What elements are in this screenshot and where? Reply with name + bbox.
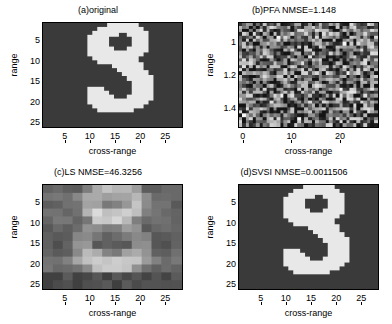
subplot-a-xticks: 510152025 xyxy=(42,131,183,143)
subplot-d-xtick-mark xyxy=(336,302,337,305)
subplot-c-axes xyxy=(42,184,183,290)
subplot-b-xtick-mark xyxy=(340,140,341,143)
subplot-b-yticks: 11.21.4 xyxy=(196,22,236,128)
subplot-a-xtick-mark xyxy=(65,140,66,143)
subplot-c-xtick-mark xyxy=(165,302,166,305)
subplot-c-xticks: 510152025 xyxy=(42,293,183,305)
subplot-b-axes xyxy=(238,22,379,128)
subplot-a-ytick-label: 10 xyxy=(2,56,40,65)
subplot-d-xlabel: cross-range xyxy=(238,308,379,318)
subplot-b-ytick-label: 1 xyxy=(198,37,236,46)
subplot-c-title: (c)LS NMSE=46.3256 xyxy=(0,167,196,178)
subplot-d-xtick-mark xyxy=(286,302,287,305)
subplot-a-title: (a)original xyxy=(0,5,196,16)
subplot-b-ytick-label: 1.2 xyxy=(198,71,236,80)
subplot-c-ytick-label: 10 xyxy=(2,218,40,227)
subplot-a-xlabel: cross-range xyxy=(42,146,183,156)
subplot-d-yticks: 510152025 xyxy=(196,184,236,290)
subplot-a-xtick-mark xyxy=(165,140,166,143)
subplot-d-ytick-label: 25 xyxy=(198,279,236,288)
subplot-d-image xyxy=(239,185,378,289)
subplot-d-ytick-label: 15 xyxy=(198,239,236,248)
subplot-c-ytick-label: 15 xyxy=(2,239,40,248)
subplot-a-yticks: 510152025 xyxy=(0,22,40,128)
subplot-c-ls: (c)LS NMSE=46.3256 range 510152025 51015… xyxy=(0,162,196,324)
subplot-a-xtick-mark xyxy=(115,140,116,143)
subplot-d-ytick-label: 20 xyxy=(198,259,236,268)
subplot-c-ytick-label: 25 xyxy=(2,279,40,288)
subplot-a-xtick-mark xyxy=(140,140,141,143)
subplot-c-ytick-label: 5 xyxy=(2,198,40,207)
subplot-d-axes xyxy=(238,184,379,290)
subplot-c-xtick-mark xyxy=(65,302,66,305)
subplot-c-xtick-mark xyxy=(90,302,91,305)
subplot-b-pfa: (b)PFA NMSE=1.148 range 11.21.4 01020 cr… xyxy=(196,0,392,162)
subplot-b-ytick-label: 1.4 xyxy=(198,104,236,113)
subplot-b-xlabel: cross-range xyxy=(238,146,379,156)
subplot-d-xticks: 510152025 xyxy=(238,293,379,305)
subplot-b-xticks: 01020 xyxy=(238,131,379,143)
subplot-c-image xyxy=(43,185,182,289)
subplot-c-xtick-mark xyxy=(115,302,116,305)
subplot-a-axes xyxy=(42,22,183,128)
subplot-d-xtick-mark xyxy=(261,302,262,305)
subplot-c-xtick-mark xyxy=(140,302,141,305)
subplot-d-ytick-label: 10 xyxy=(198,218,236,227)
subplot-a-ytick-label: 5 xyxy=(2,36,40,45)
subplot-d-svsi: (d)SVSI NMSE=0.0011506 range 510152025 5… xyxy=(196,162,392,324)
subplot-a-original: (a)original range 510152025 510152025 cr… xyxy=(0,0,196,162)
figure: (a)original range 510152025 510152025 cr… xyxy=(0,0,392,324)
subplot-b-title: (b)PFA NMSE=1.148 xyxy=(196,5,392,16)
subplot-a-ytick-label: 25 xyxy=(2,117,40,126)
subplot-c-ytick-label: 20 xyxy=(2,259,40,268)
subplot-d-xtick-mark xyxy=(361,302,362,305)
subplot-d-ytick-label: 5 xyxy=(198,198,236,207)
subplot-c-xlabel: cross-range xyxy=(42,308,183,318)
subplot-a-image xyxy=(43,23,182,127)
subplot-b-xtick-mark xyxy=(291,140,292,143)
subplot-a-ytick-label: 15 xyxy=(2,77,40,86)
subplot-b-image xyxy=(239,23,378,127)
subplot-a-ytick-label: 20 xyxy=(2,97,40,106)
subplot-d-title: (d)SVSI NMSE=0.0011506 xyxy=(196,167,392,178)
subplot-c-yticks: 510152025 xyxy=(0,184,40,290)
subplot-a-xtick-mark xyxy=(90,140,91,143)
subplot-b-xtick-mark xyxy=(243,140,244,143)
subplot-d-xtick-mark xyxy=(311,302,312,305)
